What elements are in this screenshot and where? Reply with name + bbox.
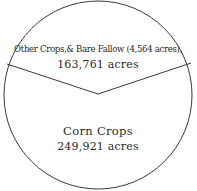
slice-value-other-crops: 163,761 acres — [57, 58, 139, 71]
pie-chart: Other Crops,& Bare Fallow (4,564 acres),… — [0, 0, 197, 191]
slice-value-corn-crops: 249,921 acres — [57, 140, 139, 153]
slice-label-corn-crops: Corn Crops — [63, 124, 133, 138]
slice-label-other-crops: Other Crops,& Bare Fallow (4,564 acres), — [14, 44, 182, 54]
pie-outline — [4, 1, 192, 189]
